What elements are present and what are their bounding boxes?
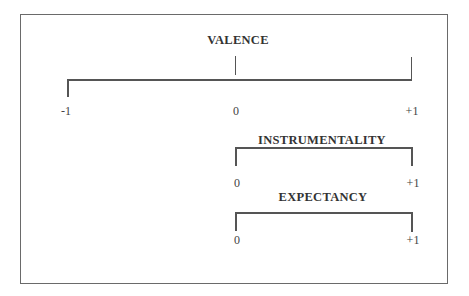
instrumentality-min-tick — [235, 147, 237, 166]
instrumentality-label: INSTRUMENTALITY — [258, 133, 386, 148]
instrumentality-max-tick — [411, 147, 413, 166]
expectancy-min-value: 0 — [234, 233, 240, 248]
valence-scale-line — [67, 79, 412, 81]
valence-min-value: -1 — [61, 104, 71, 119]
valence-mid-tick — [235, 56, 236, 75]
valence-min-tick — [67, 79, 69, 97]
expectancy-max-value: +1 — [407, 233, 420, 248]
expectancy-max-tick — [411, 212, 413, 232]
valence-max-value: +1 — [406, 104, 419, 119]
valence-max-tick — [411, 57, 412, 79]
expectancy-label: EXPECTANCY — [279, 190, 368, 205]
valence-label: VALENCE — [207, 33, 269, 48]
instrumentality-scale-line — [235, 147, 412, 149]
expectancy-scale-line — [235, 212, 412, 214]
expectancy-min-tick — [235, 212, 237, 231]
instrumentality-max-value: +1 — [407, 176, 420, 191]
instrumentality-min-value: 0 — [234, 176, 240, 191]
valence-mid-value: 0 — [233, 104, 239, 119]
